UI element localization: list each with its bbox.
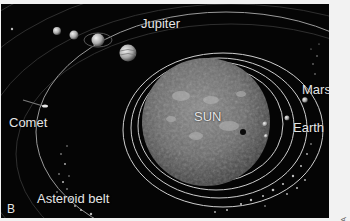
image-credit: NASA xyxy=(339,217,348,221)
label-asteroid-belt: Asteroid belt xyxy=(37,192,109,205)
planet-mercury xyxy=(264,134,268,138)
label-earth: Earth xyxy=(293,121,324,134)
label-jupiter: Jupiter xyxy=(141,17,180,30)
planet-earth xyxy=(285,116,290,121)
solar-system-artwork xyxy=(1,4,329,218)
planet-small xyxy=(70,31,79,40)
panel-letter: B xyxy=(7,203,15,215)
label-comet: Comet xyxy=(9,116,47,129)
planet-mercury-like xyxy=(53,27,61,35)
solar-system-illustration: Jupiter Mars SUN Earth Comet Asteroid be… xyxy=(1,4,329,218)
comet xyxy=(23,100,48,108)
planet-distant xyxy=(11,28,13,30)
label-mars: Mars xyxy=(302,83,329,96)
label-sun: SUN xyxy=(194,110,221,123)
planet-jupiter xyxy=(120,45,137,62)
planet-saturn xyxy=(92,34,105,47)
planet-venus xyxy=(263,122,268,127)
planet-mars xyxy=(302,97,308,103)
